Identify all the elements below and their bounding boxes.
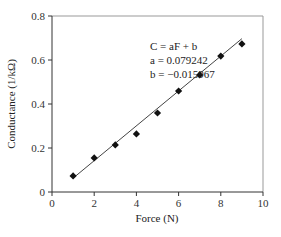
y-axis-label: Conductance (1/kΩ) (5, 59, 18, 149)
y-tick-label: 0 (40, 186, 46, 198)
scatter-chart: 0246810 00.20.40.60.8 C = aF + b a = 0.0… (0, 0, 281, 237)
equation-line-3: b = −0.015967 (150, 68, 215, 80)
data-point-diamond (91, 154, 98, 161)
x-tick-label: 2 (91, 197, 97, 209)
x-tick-label: 0 (49, 197, 55, 209)
y-tick-label: 0.4 (31, 98, 45, 110)
data-point-diamond (112, 141, 119, 148)
x-tick-label: 4 (134, 197, 140, 209)
equation-line-2: a = 0.079242 (150, 54, 208, 66)
y-tick-label: 0.8 (31, 10, 45, 22)
equation-line-1: C = aF + b (150, 40, 198, 52)
y-tick-label: 0.2 (31, 142, 45, 154)
y-tick-label: 0.6 (31, 54, 45, 66)
x-tick-label: 8 (218, 197, 224, 209)
data-point-diamond (238, 40, 245, 47)
equation-annotation: C = aF + b a = 0.079242 b = −0.015967 (150, 40, 215, 80)
x-tick-label: 6 (176, 197, 182, 209)
x-axis-label: Force (N) (135, 212, 178, 225)
y-axis-ticks: 00.20.40.60.8 (31, 10, 52, 198)
data-point-diamond (70, 172, 77, 179)
x-axis-ticks: 0246810 (49, 192, 269, 209)
data-point-diamond (133, 130, 140, 137)
x-tick-label: 10 (258, 197, 270, 209)
